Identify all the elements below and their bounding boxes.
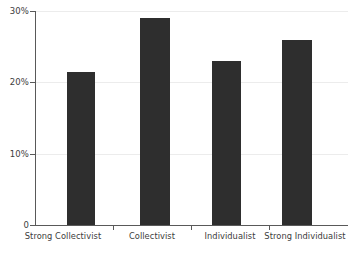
y-tick-0 xyxy=(30,225,35,226)
x-tick-label-individualist: Individualist xyxy=(191,232,269,241)
x-tick-label-collectivist: Collectivist xyxy=(113,232,191,241)
y-tick-label-20: 20% xyxy=(1,78,29,87)
bar-chart: 30% 20% 10% 0 Strong Collectivist Collec… xyxy=(0,0,348,253)
bar-strong-collectivist xyxy=(67,72,95,225)
x-tick-1 xyxy=(113,226,114,230)
y-tick-label-30: 30% xyxy=(1,7,29,16)
x-tick-3 xyxy=(269,226,270,230)
y-tick-label-0: 0 xyxy=(1,221,29,230)
y-axis-labels: 30% 20% 10% 0 xyxy=(0,0,29,253)
x-tick-2 xyxy=(191,226,192,230)
bar-collectivist xyxy=(140,18,170,225)
x-tick-label-strong-individualist: Strong Individualist xyxy=(262,232,348,241)
y-tick-label-10: 10% xyxy=(1,150,29,159)
bars-layer xyxy=(35,11,348,225)
bar-individualist xyxy=(212,61,241,225)
bar-strong-individualist xyxy=(282,40,312,225)
x-tick-label-strong-collectivist: Strong Collectivist xyxy=(10,232,116,241)
